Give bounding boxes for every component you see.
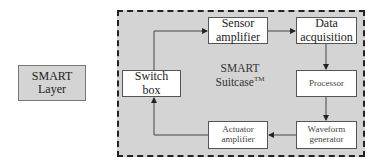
sensor-amplifier-block: Sensor amplifier [208,17,268,44]
processor-block: Processor [296,70,357,97]
switch-box-label-line1: Switch [135,70,168,83]
processor-label: Processor [309,79,344,89]
suitcase-title-line1: SMART [190,62,290,75]
sensor-amplifier-label-line2: amplifier [216,31,260,44]
trademark-symbol: TM [254,75,265,83]
waveform-generator-label-line2: generator [308,135,346,145]
actuator-amplifier-label-line2: amplifier [222,135,255,145]
smart-layer-block: SMART Layer [18,65,86,101]
waveform-generator-block: Waveform generator [296,121,357,149]
smart-layer-label-line1: SMART [32,69,72,83]
smart-layer-label-line2: Layer [38,82,66,96]
actuator-amplifier-block: Actuator amplifier [208,121,268,149]
data-acquisition-block: Data acquisition [296,17,357,44]
suitcase-title-text: Suitcase [216,76,254,88]
sensor-amplifier-label-line1: Sensor [216,17,260,30]
data-acquisition-label-line2: acquisition [300,31,353,44]
switch-box-block: Switch box [122,70,181,97]
smart-suitcase-label: SMART SuitcaseTM [190,62,290,89]
switch-box-label-line2: box [135,84,168,97]
suitcase-title-line2: SuitcaseTM [190,75,290,89]
data-acquisition-label-line1: Data [300,17,353,30]
